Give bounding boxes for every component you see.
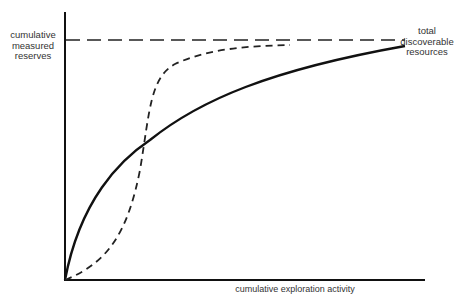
- x-axis-label: cumulative exploration activity: [195, 284, 395, 295]
- solid-curve: [65, 46, 405, 280]
- y-label-line: cumulative: [2, 30, 64, 41]
- diagram-canvas: [0, 0, 460, 296]
- asymptote-label: total discoverable resources: [394, 26, 460, 58]
- asymptote-label-line: resources: [394, 47, 460, 58]
- y-axis-label: cumulative measured reserves: [2, 30, 64, 62]
- y-label-line: reserves: [2, 51, 64, 62]
- asymptote-label-line: total: [394, 26, 460, 37]
- dashed-s-curve: [65, 45, 290, 280]
